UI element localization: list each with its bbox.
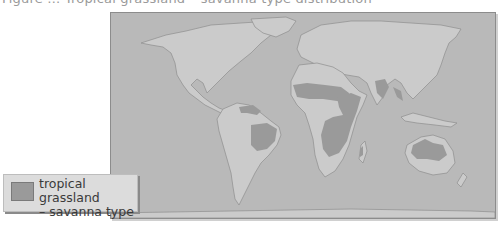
legend-label-line2: – savanna type — [39, 205, 137, 219]
legend-swatch-savanna — [11, 182, 34, 201]
map-legend: tropical grassland – savanna type — [3, 174, 138, 212]
world-map-svg — [111, 13, 495, 218]
legend-label: tropical grassland – savanna type — [39, 177, 137, 219]
figure-caption-fragment: Figure … Tropical grassland – savanna ty… — [2, 0, 372, 6]
legend-label-line1: tropical grassland — [39, 177, 137, 205]
world-map — [110, 12, 496, 219]
